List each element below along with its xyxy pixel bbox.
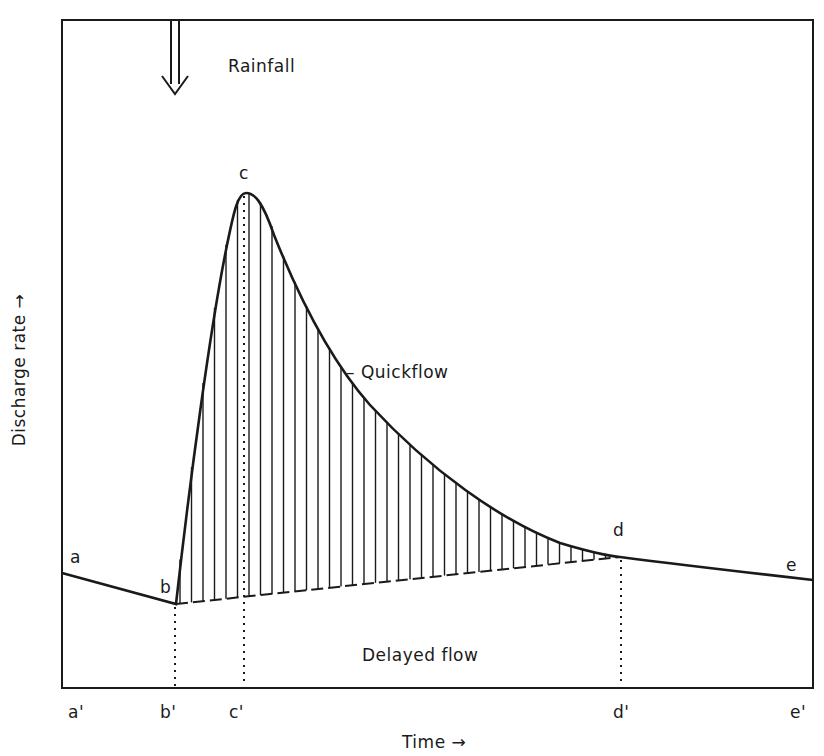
hydrograph-curve [62, 193, 813, 604]
x-axis-label: Time → [402, 732, 466, 752]
point-b-label: b [160, 577, 171, 597]
point-c-label: c [239, 163, 249, 183]
quickflow-label: – Quickflow [346, 362, 449, 382]
tick-a-prime: a' [68, 702, 84, 722]
tick-e-prime: e' [790, 702, 806, 722]
point-e-label: e [786, 555, 797, 575]
tick-c-prime: c' [229, 702, 244, 722]
quickflow-hatching [180, 193, 617, 603]
delayed-flow-label: Delayed flow [362, 645, 478, 665]
plot-frame [62, 20, 813, 688]
point-d-label: d [613, 520, 624, 540]
rainfall-label: Rainfall [228, 56, 295, 76]
point-a-label: a [70, 547, 81, 567]
tick-b-prime: b' [160, 702, 176, 722]
tick-d-prime: d' [613, 702, 629, 722]
y-axis-label: Discharge rate → [9, 294, 29, 447]
rainfall-arrow-icon [162, 20, 188, 94]
